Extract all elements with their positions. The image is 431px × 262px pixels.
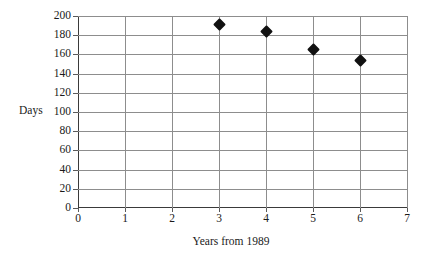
y-axis-tick <box>73 54 78 55</box>
data-point <box>213 18 226 31</box>
y-axis-tick <box>73 170 78 171</box>
gridline-vertical <box>172 16 173 208</box>
y-axis-tick-label: 100 <box>54 106 71 118</box>
gridline-vertical <box>266 16 267 208</box>
gridline-vertical <box>407 16 408 208</box>
gridline-horizontal <box>78 131 407 132</box>
gridline-horizontal <box>78 16 407 17</box>
y-axis-tick-label: 40 <box>60 164 72 176</box>
y-axis-tick-labels: 020406080100120140160180200 <box>0 16 71 208</box>
y-axis-tick-label: 0 <box>65 202 71 214</box>
gridline-horizontal <box>78 74 407 75</box>
gridline-vertical <box>125 16 126 208</box>
y-axis-tick <box>73 112 78 113</box>
gridline-vertical <box>360 16 361 208</box>
x-axis-title: Years from 1989 <box>0 236 431 248</box>
gridline-horizontal <box>78 112 407 113</box>
scatter-chart: Days 020406080100120140160180200 0123456… <box>0 0 431 262</box>
x-axis-tick-label: 2 <box>169 213 175 225</box>
y-axis-tick-label: 120 <box>54 87 71 99</box>
x-axis-tick-label: 1 <box>122 213 128 225</box>
x-axis-tick-label: 3 <box>216 213 222 225</box>
gridline-horizontal <box>78 54 407 55</box>
y-axis-tick-label: 20 <box>60 183 72 195</box>
gridline-horizontal <box>78 35 407 36</box>
y-axis-tick-label: 80 <box>60 125 72 137</box>
gridline-horizontal <box>78 150 407 151</box>
y-axis-tick-label: 180 <box>54 29 71 41</box>
y-axis-tick-label: 60 <box>60 144 72 156</box>
x-axis-tick-label: 5 <box>310 213 316 225</box>
y-axis-tick <box>73 35 78 36</box>
x-axis-tick-label: 0 <box>75 213 81 225</box>
x-axis-tick-labels: 01234567 <box>78 213 418 229</box>
y-axis-tick-label: 200 <box>54 10 71 22</box>
y-axis-tick-label: 140 <box>54 68 71 80</box>
gridline-horizontal <box>78 189 407 190</box>
y-axis-tick <box>73 16 78 17</box>
y-axis-tick <box>73 150 78 151</box>
y-axis-tick <box>73 189 78 190</box>
x-axis-tick-label: 4 <box>263 213 269 225</box>
x-axis-tick-label: 7 <box>404 213 410 225</box>
y-axis-tick <box>73 131 78 132</box>
y-axis-tick-label: 160 <box>54 48 71 60</box>
x-axis-tick-label: 6 <box>357 213 363 225</box>
y-axis-tick <box>73 93 78 94</box>
x-axis-line <box>78 207 408 208</box>
plot-area <box>78 16 407 208</box>
gridline-horizontal <box>78 93 407 94</box>
data-point <box>354 54 367 67</box>
y-axis-tick <box>73 74 78 75</box>
gridline-vertical <box>219 16 220 208</box>
gridline-horizontal <box>78 170 407 171</box>
